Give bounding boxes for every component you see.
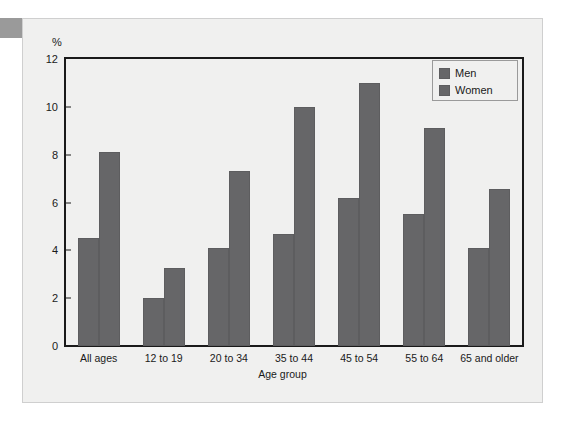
bars-area bbox=[66, 59, 522, 346]
bar-women bbox=[294, 107, 315, 346]
bar-men bbox=[78, 238, 99, 346]
x-tick-label: 65 and older bbox=[460, 352, 518, 364]
legend-swatch-women bbox=[439, 85, 450, 96]
x-tick-label: 12 to 19 bbox=[145, 352, 183, 364]
bar-men bbox=[143, 298, 164, 346]
bar-men bbox=[208, 248, 229, 346]
x-tick-label: 55 to 64 bbox=[405, 352, 443, 364]
y-axis-unit-label: % bbox=[52, 36, 62, 48]
bar-men bbox=[338, 198, 359, 346]
y-tick-label: 0 bbox=[32, 340, 58, 352]
bar-men bbox=[273, 234, 294, 346]
x-tick-label: 20 to 34 bbox=[210, 352, 248, 364]
legend-label-women: Women bbox=[455, 85, 493, 96]
y-tick-label: 10 bbox=[32, 101, 58, 113]
bar-women bbox=[359, 83, 380, 346]
y-tick-label: 8 bbox=[32, 149, 58, 161]
bar-women bbox=[489, 189, 510, 346]
bar-women bbox=[99, 152, 120, 346]
chart-page: % 024681012 All ages12 to 1920 to 3435 t… bbox=[0, 0, 565, 421]
legend-item-men: Men bbox=[439, 66, 511, 81]
bar-men bbox=[468, 248, 489, 346]
legend-swatch-men bbox=[439, 68, 450, 79]
x-axis-title: Age group bbox=[0, 368, 565, 380]
bar-women bbox=[229, 171, 250, 346]
chart-legend: Men Women bbox=[432, 60, 518, 101]
y-tick-label: 2 bbox=[32, 292, 58, 304]
y-tick-label: 6 bbox=[32, 197, 58, 209]
bar-women bbox=[164, 268, 185, 346]
legend-item-women: Women bbox=[439, 83, 511, 98]
x-tick-label: All ages bbox=[80, 352, 117, 364]
y-tick-label: 4 bbox=[32, 244, 58, 256]
bar-women bbox=[424, 128, 445, 346]
bar-men bbox=[403, 214, 424, 346]
x-tick-label: 35 to 44 bbox=[275, 352, 313, 364]
legend-label-men: Men bbox=[455, 68, 476, 79]
y-tick-label: 12 bbox=[32, 53, 58, 65]
x-tick-label: 45 to 54 bbox=[340, 352, 378, 364]
